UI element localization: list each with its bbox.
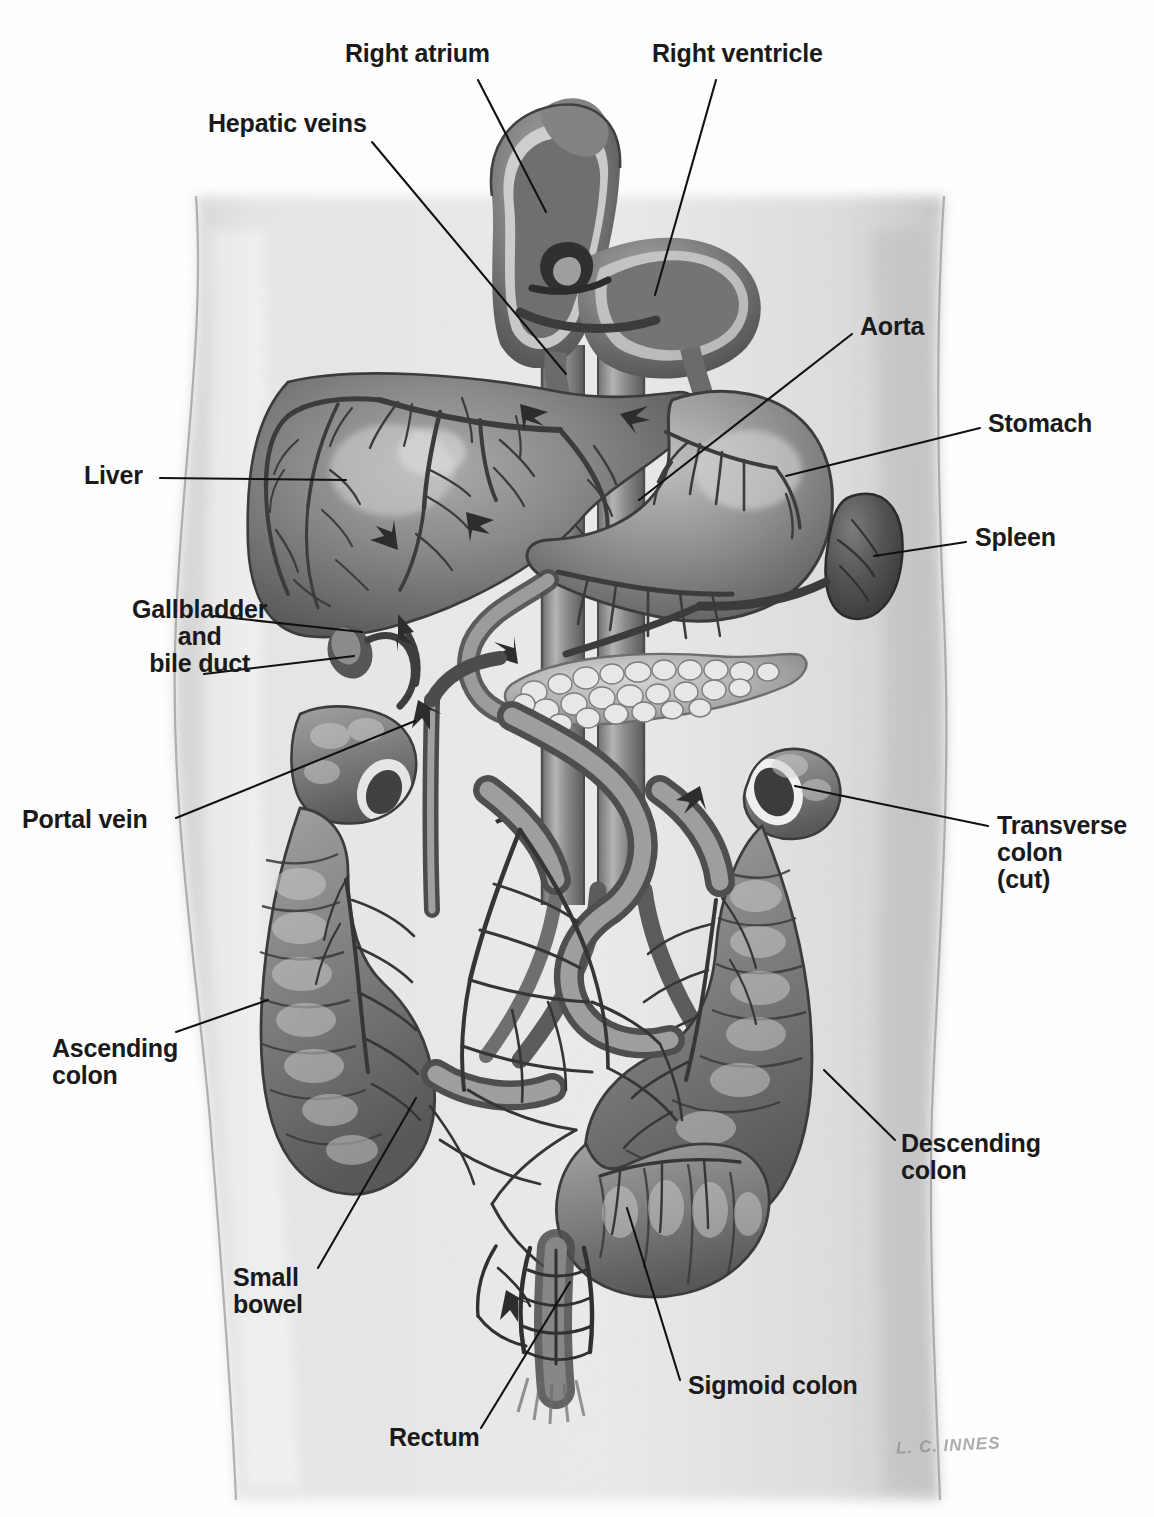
leader-liver: [160, 478, 346, 480]
leader-ascending-colon: [176, 1000, 268, 1032]
label-gallbladder: Gallbladder and bile duct: [132, 596, 267, 677]
leader-spleen: [874, 542, 966, 556]
leader-portal-vein: [176, 721, 415, 818]
label-hepatic-veins: Hepatic veins: [208, 110, 367, 137]
leader-stomach: [786, 428, 980, 476]
label-right-ventricle: Right ventricle: [652, 40, 823, 67]
label-right-atrium: Right atrium: [345, 40, 490, 67]
leader-lines-layer: [0, 0, 1154, 1517]
label-ascending-colon: Ascending colon: [52, 1035, 178, 1089]
leader-descending-colon: [824, 1070, 895, 1140]
label-spleen: Spleen: [975, 524, 1056, 551]
label-stomach: Stomach: [988, 410, 1092, 437]
label-liver: Liver: [84, 462, 143, 489]
leader-aorta: [639, 334, 852, 500]
leader-right-ventricle: [655, 80, 716, 295]
label-portal-vein: Portal vein: [22, 806, 148, 833]
label-descending-colon: Descending colon: [901, 1130, 1041, 1184]
label-aorta: Aorta: [860, 313, 924, 340]
label-sigmoid-colon: Sigmoid colon: [688, 1372, 858, 1399]
leader-transverse-colon: [795, 786, 988, 826]
leader-hepatic-veins: [372, 142, 566, 374]
leader-small-bowel: [318, 1098, 416, 1268]
label-rectum: Rectum: [389, 1424, 480, 1451]
leader-rectum: [481, 1282, 570, 1428]
anatomy-illustration: Right atriumRight ventricleHepatic veins…: [0, 0, 1154, 1517]
label-small-bowel: Small bowel: [233, 1264, 303, 1318]
leader-sigmoid-colon: [627, 1208, 680, 1380]
leader-right-atrium: [478, 80, 546, 212]
label-transverse-colon: Transverse colon (cut): [997, 812, 1127, 893]
